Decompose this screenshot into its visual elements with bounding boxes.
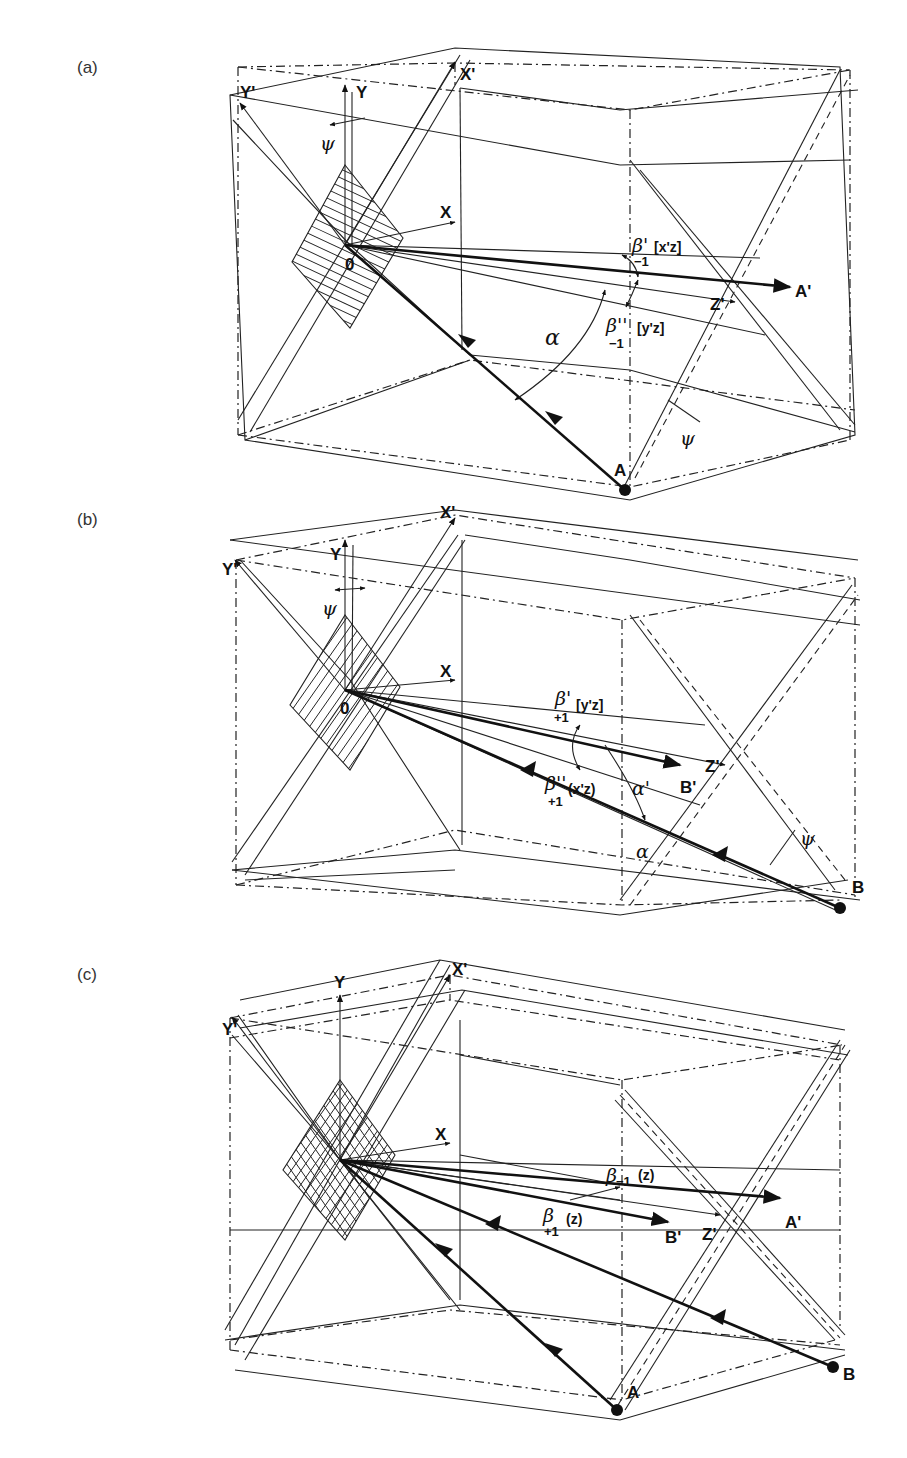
label-y-c: Y [334,973,346,992]
svg-text:(z): (z) [566,1211,582,1227]
svg-text:+1: +1 [544,1224,559,1239]
ray-c-a [340,1160,780,1416]
svg-text:β: β [542,1204,554,1226]
label-x-prime-c: X' [452,960,467,979]
label-beta-plus-c: β +1 (z) [542,1204,582,1239]
axes-c [232,975,840,1215]
label-a-c: A [627,1383,639,1402]
label-b-c: B [843,1365,855,1384]
svg-text:(z): (z) [638,1167,654,1183]
label-x-c: X [435,1125,447,1144]
frame-box-c [225,960,850,1420]
label-b-prime-c: B' [665,1228,681,1247]
panel-c-diagram: Y' Y X' X Z' A' B' A B β −1 (z) β +1 (z) [0,0,907,1458]
label-a-prime-c: A' [785,1213,801,1232]
svg-text:−1: −1 [616,1174,631,1189]
label-z-prime-c: Z' [702,1225,716,1244]
label-y-prime-c: Y' [222,1020,237,1039]
